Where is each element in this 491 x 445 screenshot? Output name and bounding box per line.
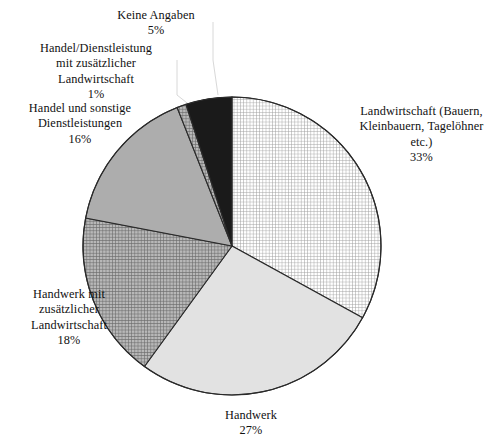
pie-chart-figure: Keine Angaben5% Handel/Dienstleistung mi… bbox=[0, 0, 491, 445]
slice-label-handel-zusaetzlich: Handel/Dienstleistung mit zusätzlicher L… bbox=[16, 41, 176, 103]
slice-label-handwerk-text: Handwerk bbox=[225, 408, 277, 422]
slice-label-landwirtschaft: Landwirtschaft (Bauern, Kleinbauern, Tag… bbox=[352, 104, 491, 166]
slice-label-handwerk-zusaetzlich: Handwerk mit zusätzlicher Landwirtschaft… bbox=[6, 287, 132, 349]
slice-value-handel-zusaetzlich: 1% bbox=[88, 87, 105, 101]
slice-label-landwirtschaft-text: Landwirtschaft (Bauern, Kleinbauern, Tag… bbox=[359, 104, 483, 149]
slice-label-handel-sonstige-text: Handel und sonstige Dienstleistungen bbox=[29, 101, 131, 130]
slice-value-handwerk: 27% bbox=[240, 423, 263, 437]
slice-value-keine-angaben: 5% bbox=[148, 23, 165, 37]
slice-value-handel-sonstige: 16% bbox=[69, 132, 92, 146]
slice-label-handel-zusaetzlich-text: Handel/Dienstleistung mit zusätzlicher L… bbox=[40, 41, 152, 86]
slice-label-handwerk: Handwerk27% bbox=[196, 408, 306, 439]
slice-value-landwirtschaft: 33% bbox=[410, 150, 433, 164]
slice-label-handel-sonstige: Handel und sonstige Dienstleistungen16% bbox=[4, 101, 156, 147]
slice-label-handwerk-zusaetzlich-text: Handwerk mit zusätzlicher Landwirtschaft bbox=[31, 287, 107, 332]
slice-label-keine-angaben-text: Keine Angaben bbox=[117, 8, 194, 22]
slice-value-handwerk-zusaetzlich: 18% bbox=[58, 333, 81, 347]
slice-label-keine-angaben: Keine Angaben5% bbox=[96, 8, 216, 39]
